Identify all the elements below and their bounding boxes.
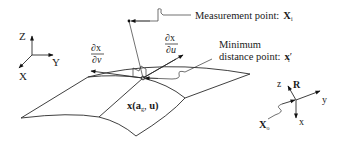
local-frame: z R y x Xo [259, 79, 327, 131]
tangent-u-arrow-second [143, 59, 176, 78]
measurement-point-label: Measurement point:Xi [195, 10, 293, 22]
tangent-v-label: ∂x ∂v [91, 42, 104, 65]
global-x-axis [19, 55, 32, 68]
tangent-u-numerator: ∂x [165, 32, 175, 43]
tangent-v-denominator: ∂v [92, 54, 102, 65]
global-y-label: Y [52, 56, 60, 68]
local-y-axis [296, 91, 320, 100]
tangent-v-numerator: ∂x [91, 42, 101, 53]
right-angle-marker [133, 66, 146, 76]
surface-mesh-v [99, 78, 143, 117]
local-y-label: y [322, 94, 327, 105]
local-origin-leader [268, 104, 282, 119]
global-z-label: Z [19, 30, 26, 42]
minimum-distance-arrow [145, 78, 158, 79]
local-rotation-label: R [293, 79, 301, 90]
surface-edge-left [21, 77, 88, 118]
minimum-distance-label-line2: distance point:x′i [219, 51, 292, 63]
local-origin-arrow [282, 100, 295, 104]
surface-diagram: Z Y X x(ag, u) Measurement point:Xi ∂x ∂… [0, 0, 340, 143]
surface-function-label: x(ag, u) [127, 100, 159, 112]
measurement-point-leader [135, 9, 191, 21]
tangent-u-denominator: ∂u [166, 44, 176, 55]
measurement-point-marker [128, 20, 131, 23]
global-axes: Z Y X [19, 30, 60, 82]
local-x-label: x [299, 116, 304, 127]
global-x-label: X [19, 70, 27, 82]
minimum-distance-leader [147, 59, 212, 79]
local-z-label: z [277, 79, 281, 89]
local-origin-label: Xo [259, 119, 270, 131]
tangent-u-label: ∂x ∂u [165, 32, 178, 55]
surface-edge-bottom [21, 115, 136, 136]
minimum-distance-label-line1: Minimum [219, 39, 261, 50]
